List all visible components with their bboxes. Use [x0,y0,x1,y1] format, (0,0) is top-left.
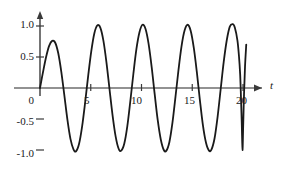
chart-figure: 1.0 0.5 0 -0.5 -1.0 5 10 15 20 t [0,0,288,176]
x-axis-name: t [270,80,273,91]
oscillation-plot [0,0,288,176]
x-axis-arrow-icon [254,85,262,92]
x-tick-label-10: 10 [131,95,142,106]
y-axis-arrow-icon [37,11,43,19]
y-tick-label-neg-1-0: -1.0 [2,148,34,159]
x-tick-label-15: 15 [184,95,195,106]
y-tick-label-0-5: 0.5 [6,51,34,62]
y-tick-label-1-0: 1.0 [6,19,34,30]
y-tick-label-0: 0 [6,95,34,106]
x-tick-label-5: 5 [84,95,90,106]
x-tick-label-20: 20 [236,95,247,106]
y-tick-label-neg-0-5: -0.5 [2,116,34,127]
